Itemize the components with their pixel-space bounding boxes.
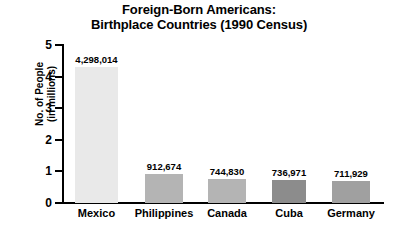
bar-value-label: 4,298,014 — [75, 55, 117, 65]
bar-mexico: 4,298,014 — [75, 67, 118, 203]
y-axis-tick-label: 5 — [36, 39, 52, 51]
bar-value-label: 744,830 — [210, 167, 244, 177]
bar-value-label: 711,929 — [334, 169, 368, 179]
bar-canada: 744,830 — [208, 179, 246, 203]
bar-cuba: 736,971 — [272, 180, 306, 203]
chart-title: Foreign-Born Americans: Birthplace Count… — [0, 2, 398, 32]
y-axis-tick-label: 4 — [36, 71, 52, 83]
bar-value-label: 912,674 — [147, 162, 181, 172]
x-axis-label-germany: Germany — [306, 207, 396, 220]
bar-germany: 711,929 — [332, 181, 370, 203]
y-axis-tick-label: 2 — [36, 134, 52, 146]
bar-value-label: 736,971 — [272, 168, 306, 178]
y-axis-tick-label: 0 — [36, 197, 52, 209]
chart-title-line-1: Foreign-Born Americans: — [0, 2, 398, 17]
chart-title-line-2: Birthplace Countries (1990 Census) — [0, 17, 398, 32]
y-axis-tick-label: 1 — [36, 165, 52, 177]
bars-layer: 4,298,014912,674744,830736,971711,929 — [62, 45, 386, 203]
bar-chart: Foreign-Born Americans: Birthplace Count… — [0, 0, 398, 229]
y-axis-tick-label: 3 — [36, 102, 52, 114]
bar-philippines: 912,674 — [145, 174, 183, 203]
